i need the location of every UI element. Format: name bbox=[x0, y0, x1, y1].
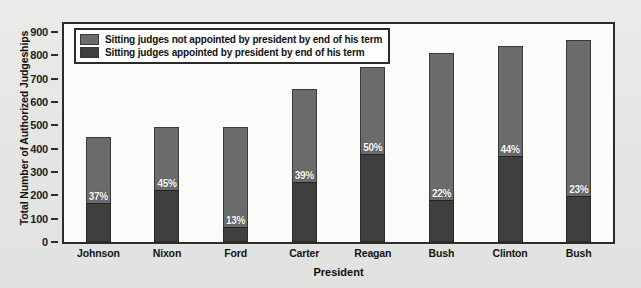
y-tick-mark bbox=[51, 194, 58, 196]
bar-segment-appointed bbox=[566, 196, 591, 242]
y-tick-label: 600 bbox=[30, 96, 48, 108]
bar[interactable]: 23% bbox=[566, 40, 591, 242]
y-tick-label: 200 bbox=[30, 189, 48, 201]
x-tick-label: Bush bbox=[429, 247, 455, 259]
x-tick-label: Reagan bbox=[354, 247, 391, 259]
bar-segment-appointed bbox=[292, 182, 317, 242]
bar[interactable]: 39% bbox=[292, 89, 317, 242]
y-axis: 0100200300400500600700800900 bbox=[0, 22, 58, 244]
y-tick-label: 100 bbox=[30, 213, 48, 225]
bar-segment-not-appointed bbox=[292, 89, 317, 183]
bar-percent-label: 13% bbox=[226, 215, 245, 226]
x-axis-title: President bbox=[62, 266, 615, 278]
legend-label: Sitting judges not appointed by presiden… bbox=[105, 34, 382, 45]
y-tick-mark bbox=[51, 241, 58, 243]
y-tick-label: 500 bbox=[30, 119, 48, 131]
bar-percent-label: 37% bbox=[89, 191, 108, 202]
figure-page: Total Number of Authorized Judgeships 01… bbox=[0, 0, 641, 288]
bar[interactable]: 45% bbox=[154, 127, 179, 243]
bar-percent-label: 44% bbox=[501, 144, 520, 155]
legend-swatch-not-appointed bbox=[80, 34, 99, 45]
bar-segment-appointed bbox=[429, 200, 454, 242]
y-tick-mark bbox=[51, 124, 58, 126]
bar-segment-appointed bbox=[360, 154, 385, 242]
x-tick-label: Ford bbox=[224, 247, 247, 259]
bar-percent-label: 39% bbox=[295, 170, 314, 181]
y-tick-label: 900 bbox=[30, 26, 48, 38]
x-tick-label: Clinton bbox=[493, 247, 528, 259]
legend-swatch-appointed bbox=[80, 47, 99, 58]
x-tick-label: Nixon bbox=[153, 247, 181, 259]
bar-segment-appointed bbox=[86, 203, 111, 242]
x-tick-label: Carter bbox=[289, 247, 319, 259]
x-tick-label: Bush bbox=[566, 247, 592, 259]
y-tick-mark bbox=[51, 54, 58, 56]
chart-frame: 37%45%13%39%50%22%44%23% Sitting judges … bbox=[62, 22, 615, 244]
bar[interactable]: 44% bbox=[498, 46, 523, 242]
legend-item: Sitting judges appointed by president by… bbox=[80, 46, 382, 59]
chart-legend: Sitting judges not appointed by presiden… bbox=[74, 28, 390, 64]
y-tick-mark bbox=[51, 78, 58, 80]
bar-percent-label: 23% bbox=[569, 184, 588, 195]
bar[interactable]: 22% bbox=[429, 53, 454, 242]
bar[interactable]: 50% bbox=[360, 67, 385, 242]
y-tick-label: 700 bbox=[30, 73, 48, 85]
legend-item: Sitting judges not appointed by presiden… bbox=[80, 33, 382, 46]
y-tick-mark bbox=[51, 101, 58, 103]
y-tick-mark bbox=[51, 31, 58, 33]
y-tick-mark bbox=[51, 171, 58, 173]
legend-label: Sitting judges appointed by president by… bbox=[105, 47, 364, 58]
bar-segment-not-appointed bbox=[223, 127, 248, 228]
bar-segment-appointed bbox=[498, 156, 523, 242]
y-tick-label: 0 bbox=[42, 236, 48, 248]
bar-segment-appointed bbox=[223, 227, 248, 242]
bar-percent-label: 50% bbox=[363, 142, 382, 153]
bar-percent-label: 22% bbox=[432, 188, 451, 199]
bar-percent-label: 45% bbox=[157, 178, 176, 189]
y-tick-label: 400 bbox=[30, 143, 48, 155]
bar[interactable]: 37% bbox=[86, 137, 111, 242]
bar[interactable]: 13% bbox=[223, 127, 248, 243]
bar-segment-not-appointed bbox=[360, 67, 385, 155]
bar-segment-not-appointed bbox=[498, 46, 523, 156]
y-tick-mark bbox=[51, 218, 58, 220]
bar-segment-appointed bbox=[154, 190, 179, 242]
bar-segment-not-appointed bbox=[429, 53, 454, 201]
x-tick-label: Johnson bbox=[77, 247, 120, 259]
x-axis: JohnsonNixonFordCarterReaganBushClintonB… bbox=[62, 247, 615, 261]
bar-segment-not-appointed bbox=[566, 40, 591, 196]
y-tick-label: 300 bbox=[30, 166, 48, 178]
y-tick-label: 800 bbox=[30, 49, 48, 61]
y-tick-mark bbox=[51, 148, 58, 150]
